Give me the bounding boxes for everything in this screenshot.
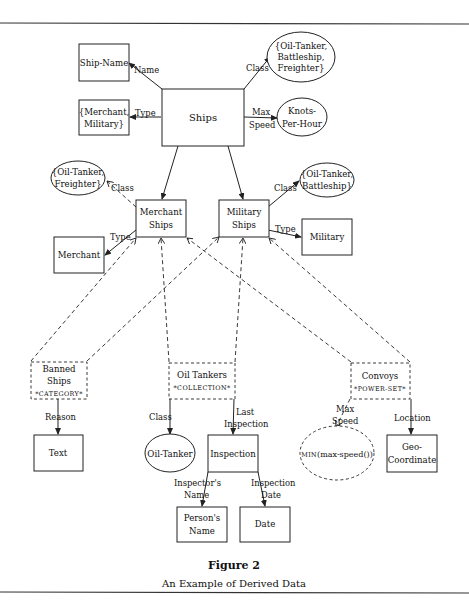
svg-text:MIN(max-speed()): MIN(max-speed()) — [301, 450, 373, 459]
node-convoys: Convoys *POWER-SET* — [351, 363, 410, 399]
bottom-rule — [0, 592, 469, 593]
svg-text:Battleship,: Battleship, — [277, 52, 324, 62]
svg-text:Merchant: Merchant — [140, 207, 183, 217]
edge-oiltankers-merchant — [161, 238, 169, 362]
svg-text:{Oil-Tanker,: {Oil-Tanker, — [301, 169, 354, 179]
derived-data-diagram: Ship-Name {Oil-Tanker, Battleship, Freig… — [0, 0, 469, 610]
edge-convoys-military — [269, 238, 410, 362]
node-military: Military — [302, 219, 352, 255]
label-last: Last — [236, 407, 255, 417]
svg-text:{Merchant,: {Merchant, — [79, 107, 130, 117]
top-rule — [0, 23, 469, 24]
node-geo-coordinate: Geo- Coordinate — [387, 435, 437, 472]
figure-caption: An Example of Derived Data — [161, 578, 306, 589]
node-date: Date — [240, 507, 290, 542]
node-inspection: Inspection — [208, 435, 258, 472]
node-min-max-speed: MIN(max-speed()) — [300, 426, 374, 480]
label-merchant-type: Type — [110, 232, 131, 242]
label-military-type: Type — [275, 224, 296, 234]
svg-text:Ships: Ships — [189, 112, 217, 123]
svg-text:Person's: Person's — [184, 513, 220, 523]
svg-text:Inspection: Inspection — [210, 449, 256, 459]
node-banned-ships: Banned Ships *CATEGORY* — [31, 362, 87, 399]
svg-text:{Oil-Tanker,: {Oil-Tanker, — [52, 167, 105, 177]
label-speed-convoys: Speed — [332, 416, 359, 426]
svg-text:Oil-Tanker: Oil-Tanker — [147, 449, 193, 459]
node-military-ships: Military Ships — [219, 200, 269, 237]
label-max-convoys: Max — [336, 404, 355, 414]
svg-text:Coordinate: Coordinate — [388, 455, 436, 465]
figure-title: Figure 2 — [208, 559, 260, 572]
label-merchant-class: Class — [111, 183, 134, 193]
node-military-class-set: {Oil-Tanker, Battleship} — [300, 163, 354, 197]
svg-text:Ship-Name: Ship-Name — [80, 58, 128, 68]
node-type-set: {Merchant, Military} — [79, 100, 130, 135]
edge-convoys-merchant — [187, 238, 351, 362]
edge-class-top — [244, 57, 270, 89]
svg-text:Merchant: Merchant — [58, 250, 101, 260]
node-ship-name: Ship-Name — [79, 44, 129, 81]
svg-text:Military}: Military} — [84, 119, 124, 129]
label-inspectors-name: Name — [184, 490, 209, 500]
node-class-set-top: {Oil-Tanker, Battleship, Freighter} — [267, 32, 335, 82]
label-type-top: Type — [135, 108, 156, 118]
label-max-top: Max — [252, 107, 271, 117]
label-inspectors: Inspector's — [174, 478, 221, 488]
svg-text:*CATEGORY*: *CATEGORY* — [35, 390, 83, 398]
node-ships: Ships — [162, 89, 244, 146]
svg-text:Freighter}: Freighter} — [54, 179, 101, 189]
edge-ships-merchant — [162, 146, 178, 199]
svg-text:Military: Military — [310, 232, 345, 242]
svg-text:Knots-: Knots- — [288, 106, 316, 116]
svg-text:Geo-: Geo- — [402, 442, 422, 452]
svg-text:Military: Military — [227, 207, 262, 217]
node-text: Text — [34, 435, 83, 471]
svg-text:Convoys: Convoys — [362, 371, 399, 381]
svg-text:Banned: Banned — [42, 364, 76, 374]
label-name: Name — [134, 65, 159, 75]
label-class-oiltankers: Class — [149, 412, 172, 422]
node-knots-per-hour: Knots- Per-Hour — [277, 98, 327, 136]
svg-text:Battleship}: Battleship} — [302, 181, 352, 191]
svg-text:Text: Text — [49, 448, 68, 458]
node-merchant-ships: Merchant Ships — [136, 200, 186, 237]
svg-text:{Oil-Tanker,: {Oil-Tanker, — [275, 41, 328, 51]
svg-text:*COLLECTION*: *COLLECTION* — [174, 384, 231, 392]
node-merchant-class-set: {Oil-Tanker, Freighter} — [51, 161, 105, 195]
svg-text:*POWER-SET*: *POWER-SET* — [354, 385, 406, 393]
edge-banned-military — [87, 237, 219, 361]
label-inspection: Inspection — [224, 419, 269, 429]
svg-text:Date: Date — [255, 519, 276, 529]
svg-text:Name: Name — [189, 526, 215, 536]
node-oil-tankers: Oil Tankers *COLLECTION* — [169, 363, 235, 399]
svg-text:Ships: Ships — [47, 376, 71, 386]
svg-text:Freighter}: Freighter} — [277, 63, 324, 73]
svg-text:Ships: Ships — [149, 220, 173, 230]
label-reason: Reason — [45, 412, 77, 422]
node-persons-name: Person's Name — [177, 507, 227, 542]
svg-text:Oil Tankers: Oil Tankers — [177, 370, 227, 380]
edge-max-speed-top — [244, 117, 277, 118]
label-speed-top: Speed — [249, 120, 276, 130]
node-merchant: Merchant — [54, 237, 104, 273]
label-inspection-date-2: Date — [261, 490, 281, 500]
label-location: Location — [394, 413, 431, 423]
svg-text:Ships: Ships — [232, 220, 256, 230]
label-class-top: Class — [246, 63, 269, 73]
node-oil-tanker: Oil-Tanker — [145, 434, 195, 472]
label-inspection-date-1: Inspection — [251, 478, 296, 488]
label-military-class: Class — [274, 183, 297, 193]
edge-oiltankers-military — [235, 238, 243, 362]
edge-ships-military — [228, 146, 243, 199]
svg-text:Per-Hour: Per-Hour — [282, 119, 323, 129]
